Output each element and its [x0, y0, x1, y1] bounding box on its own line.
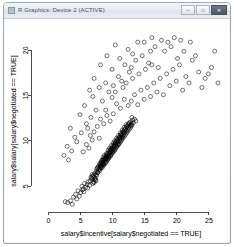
data-point — [74, 192, 78, 196]
maximize-button[interactable]: □ — [196, 5, 210, 15]
x-tick-label: 20 — [173, 217, 181, 224]
data-point — [79, 131, 83, 135]
data-point — [86, 126, 90, 130]
minimize-icon: ─ — [186, 8, 190, 13]
data-point — [113, 43, 117, 47]
r-graphics-window: R Graphics: Device 2 (ACTIVE) ─ □ ✕ 0510… — [3, 2, 231, 244]
data-point — [131, 76, 135, 80]
data-point — [110, 67, 114, 71]
data-point — [92, 130, 96, 134]
data-point — [152, 81, 156, 85]
window-title: R Graphics: Device 2 (ACTIVE) — [18, 5, 105, 16]
data-point — [115, 102, 119, 106]
data-point — [84, 122, 88, 126]
data-points-layer — [62, 36, 220, 207]
data-point — [123, 63, 127, 67]
data-point — [137, 72, 141, 76]
data-point — [156, 66, 160, 70]
scatter-plot: 05101520255101520salary$incentive[salary… — [5, 20, 231, 245]
window-titlebar[interactable]: R Graphics: Device 2 (ACTIVE) ─ □ ✕ — [4, 3, 230, 19]
data-point — [216, 81, 220, 85]
data-point — [99, 117, 103, 121]
data-point — [88, 88, 92, 92]
close-icon: ✕ — [217, 8, 221, 13]
data-point — [120, 79, 124, 83]
data-point — [143, 67, 147, 71]
maximize-icon: □ — [201, 8, 204, 13]
data-point — [63, 200, 67, 204]
data-point — [210, 66, 214, 70]
data-point — [172, 36, 176, 40]
data-point — [122, 97, 126, 101]
data-point — [197, 70, 201, 74]
data-point — [97, 136, 101, 140]
data-point — [140, 54, 144, 58]
data-point — [70, 149, 74, 153]
data-point — [149, 49, 153, 53]
data-point — [92, 76, 96, 80]
data-point — [75, 140, 79, 144]
data-point — [73, 135, 77, 139]
data-point — [84, 143, 88, 147]
data-point — [70, 202, 74, 206]
data-point — [66, 158, 70, 162]
data-point — [81, 150, 85, 154]
data-point — [82, 104, 86, 108]
data-point — [134, 58, 138, 62]
data-point — [200, 85, 204, 89]
app-icon — [8, 7, 15, 14]
data-point — [142, 40, 146, 44]
data-point — [118, 106, 122, 110]
data-point — [116, 75, 120, 79]
data-point — [91, 95, 95, 99]
window-controls: ─ □ ✕ — [181, 5, 227, 15]
data-point — [95, 124, 99, 128]
x-tick-label: 25 — [205, 217, 213, 224]
data-point — [182, 49, 186, 53]
data-point — [68, 126, 72, 130]
screenshot-root: R Graphics: Device 2 (ACTIVE) ─ □ ✕ 0510… — [0, 0, 234, 247]
data-point — [142, 97, 146, 101]
data-point — [187, 81, 191, 85]
data-point — [169, 45, 173, 49]
data-point — [126, 104, 130, 108]
y-axis-title: salary$salary[salary$negotiated == TRUE] — [10, 55, 18, 186]
plot-canvas: 05101520255101520salary$incentive[salary… — [5, 19, 229, 242]
data-point — [177, 63, 181, 67]
data-point — [99, 63, 103, 67]
data-point — [165, 72, 169, 76]
data-point — [166, 40, 170, 44]
data-point — [89, 115, 93, 119]
data-point — [171, 67, 175, 71]
data-point — [113, 90, 117, 94]
data-point — [190, 58, 194, 62]
data-point — [110, 95, 114, 99]
data-point — [213, 49, 217, 53]
data-point — [131, 52, 135, 56]
data-point — [145, 85, 149, 89]
minimize-button[interactable]: ─ — [181, 5, 195, 15]
y-tick-label: 15 — [22, 92, 29, 100]
data-point — [102, 122, 106, 126]
data-point — [107, 90, 111, 94]
data-point — [111, 84, 115, 88]
data-point — [153, 45, 157, 49]
data-point — [168, 84, 172, 88]
close-button[interactable]: ✕ — [211, 5, 227, 15]
data-point — [87, 146, 91, 150]
data-point — [188, 40, 192, 44]
x-tick-label: 0 — [47, 217, 51, 224]
data-point — [100, 99, 104, 103]
y-tick-label: 5 — [22, 184, 29, 188]
data-point — [181, 88, 185, 92]
data-point — [121, 85, 125, 89]
x-tick-label: 15 — [141, 217, 149, 224]
data-point — [136, 103, 140, 107]
data-point — [129, 66, 133, 70]
x-tick-label: 10 — [109, 217, 117, 224]
data-point — [176, 56, 180, 60]
data-point — [158, 76, 162, 80]
data-point — [127, 70, 131, 74]
data-point — [62, 153, 66, 157]
data-point — [203, 76, 207, 80]
